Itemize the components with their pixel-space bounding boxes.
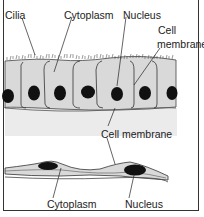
label-cilia: Cilia <box>5 9 26 21</box>
label-nucleus-upper: Nucleus <box>123 9 161 21</box>
label-cytoplasm-lower: Cytoplasm <box>47 198 97 210</box>
cell-diagram: Cilia Cytoplasm Nucleus Cell membrane Ce… <box>0 0 204 217</box>
label-cytoplasm-upper: Cytoplasm <box>64 9 114 21</box>
label-cell-membrane-upper-line2: membrane <box>157 38 204 50</box>
label-cell-membrane-upper-line1: Cell <box>158 24 176 36</box>
epithelium-layer <box>5 56 176 110</box>
label-cell-membrane-middle: Cell membrane <box>101 128 172 140</box>
squamous-lower-membrane <box>5 177 168 182</box>
label-nucleus-lower: Nucleus <box>125 198 163 210</box>
